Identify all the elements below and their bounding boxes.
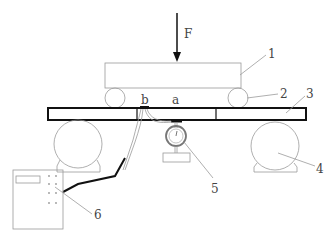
acquisition-box <box>13 170 63 229</box>
callout-4: 4 <box>316 162 324 176</box>
callout-5: 5 <box>211 182 219 196</box>
strain-gauge-a <box>172 107 181 109</box>
loading-beam <box>105 63 241 88</box>
dial-gauge <box>163 122 190 162</box>
support-right <box>251 122 299 172</box>
specimen-beam <box>48 108 306 120</box>
force-label: F <box>184 27 192 41</box>
lead-wires <box>63 109 172 192</box>
callout-3: 3 <box>306 87 314 101</box>
loading-roller-right <box>228 88 248 108</box>
point-label-b: b <box>141 93 149 107</box>
callout-2: 2 <box>280 87 288 101</box>
callout-6: 6 <box>94 208 102 222</box>
loading-roller-left <box>105 88 125 108</box>
display-screen <box>16 176 40 183</box>
strain-gauge-bottom <box>171 120 182 123</box>
force-arrow <box>173 13 181 62</box>
support-left <box>54 120 102 172</box>
test-setup-diagram: F b a <box>0 0 333 236</box>
callout-1: 1 <box>268 47 276 61</box>
point-label-a: a <box>172 93 179 107</box>
